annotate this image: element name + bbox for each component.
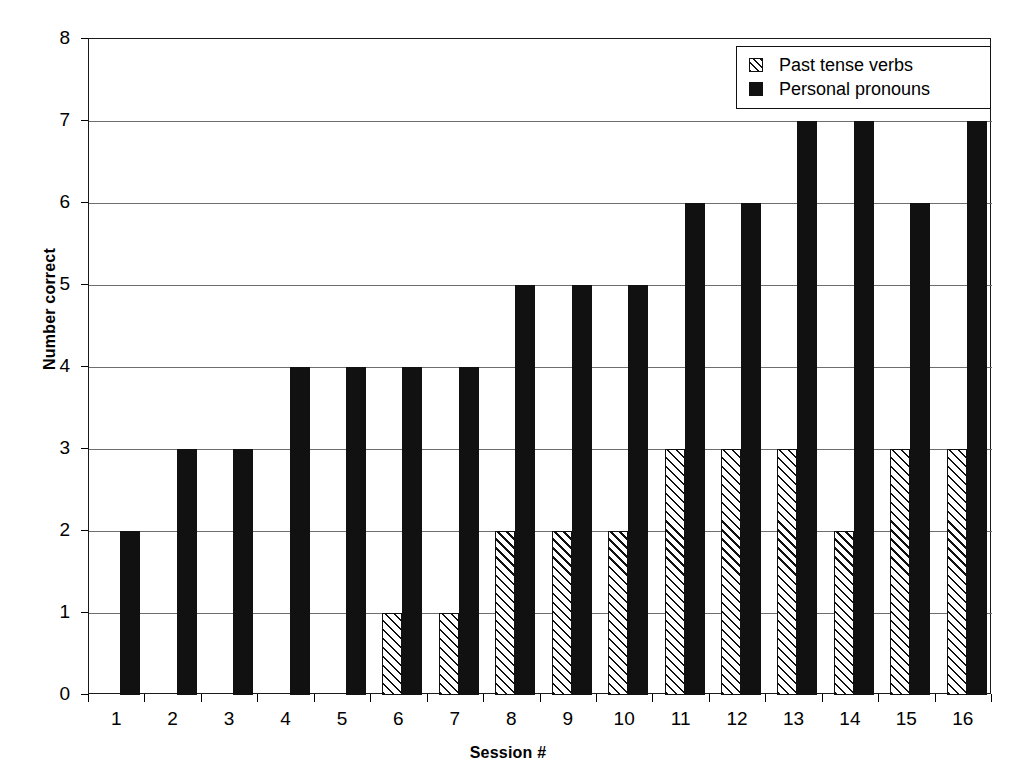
legend-item-past-tense-verbs: Past tense verbs [749,53,976,77]
x-tick-mark [427,694,428,702]
x-tick-label: 8 [489,709,533,728]
bar-personal-pronouns [346,367,366,695]
x-tick-label: 12 [715,709,759,728]
bar-personal-pronouns [290,367,310,695]
legend-swatch-hatch-icon [749,58,763,72]
legend: Past tense verbs Personal pronouns [736,46,991,109]
x-tick-label: 16 [941,709,985,728]
x-tick-label: 11 [659,709,703,728]
y-tick-label: 6 [44,192,70,211]
bar-personal-pronouns [967,121,987,695]
y-tick-label: 2 [44,520,70,539]
x-tick-label: 3 [207,709,251,728]
legend-label-personal-pronouns: Personal pronouns [779,80,930,98]
bar-past-tense-verbs [495,531,515,695]
x-tick-mark [878,694,879,702]
bar-personal-pronouns [854,121,874,695]
y-tick-label: 0 [44,684,70,703]
x-tick-label: 1 [94,709,138,728]
x-tick-label: 7 [433,709,477,728]
bar-personal-pronouns [797,121,817,695]
bar-past-tense-verbs [382,613,402,695]
legend-item-personal-pronouns: Personal pronouns [749,77,976,101]
bar-personal-pronouns [628,285,648,695]
y-tick-mark [81,530,88,531]
x-tick-label: 5 [320,709,364,728]
bar-personal-pronouns [177,449,197,695]
bar-personal-pronouns [233,449,253,695]
bar-personal-pronouns [685,203,705,695]
x-tick-label: 10 [602,709,646,728]
y-axis-title: Number correct [41,199,59,419]
x-tick-mark [822,694,823,702]
y-tick-label: 3 [44,438,70,457]
y-tick-mark [81,612,88,613]
bar-chart: Number correct 012345678 123456789101112… [0,0,1016,774]
y-tick-mark [81,120,88,121]
x-tick-mark [935,694,936,702]
y-tick-mark [81,284,88,285]
bar-past-tense-verbs [890,449,910,695]
y-tick-label: 7 [44,110,70,129]
bar-personal-pronouns [459,367,479,695]
y-tick-label: 8 [44,28,70,47]
x-tick-mark [483,694,484,702]
y-tick-label: 5 [44,274,70,293]
x-tick-label: 14 [828,709,872,728]
y-tick-label: 1 [44,602,70,621]
bar-past-tense-verbs [439,613,459,695]
x-tick-mark [88,694,89,702]
y-tick-label: 4 [44,356,70,375]
y-tick-mark [81,202,88,203]
bar-past-tense-verbs [608,531,628,695]
x-tick-mark [652,694,653,702]
x-tick-label: 15 [884,709,928,728]
x-tick-mark [540,694,541,702]
legend-swatch-solid-icon [749,82,763,96]
plot-area [88,38,991,694]
bar-past-tense-verbs [552,531,572,695]
x-tick-mark [257,694,258,702]
x-tick-mark [596,694,597,702]
x-tick-mark [765,694,766,702]
y-tick-mark [81,694,88,695]
y-tick-mark [81,448,88,449]
legend-label-past-tense-verbs: Past tense verbs [779,56,913,74]
bar-past-tense-verbs [721,449,741,695]
y-tick-mark [81,366,88,367]
x-tick-mark [314,694,315,702]
bar-personal-pronouns [572,285,592,695]
x-tick-label: 9 [546,709,590,728]
bar-personal-pronouns [402,367,422,695]
x-tick-label: 4 [264,709,308,728]
x-axis-title: Session # [0,744,1016,762]
y-tick-mark [81,38,88,39]
x-tick-mark [201,694,202,702]
x-tick-mark [991,694,992,702]
bar-past-tense-verbs [777,449,797,695]
x-tick-label: 13 [771,709,815,728]
bar-past-tense-verbs [834,531,854,695]
bar-personal-pronouns [120,531,140,695]
bar-personal-pronouns [910,203,930,695]
x-tick-label: 2 [151,709,195,728]
x-tick-mark [144,694,145,702]
x-tick-mark [709,694,710,702]
bar-past-tense-verbs [665,449,685,695]
bar-past-tense-verbs [947,449,967,695]
x-tick-label: 6 [376,709,420,728]
x-tick-mark [370,694,371,702]
bar-personal-pronouns [515,285,535,695]
bar-personal-pronouns [741,203,761,695]
